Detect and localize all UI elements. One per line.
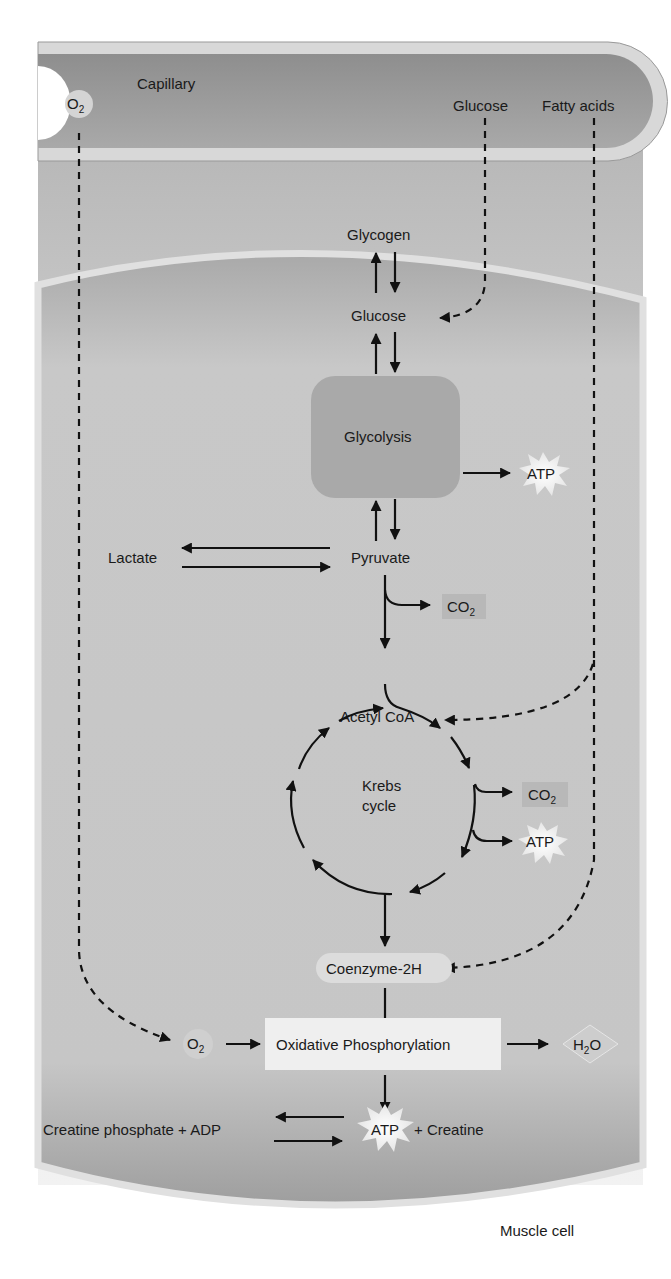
glycolysis-label: Glycolysis xyxy=(344,428,412,445)
krebs-label-line2: cycle xyxy=(362,797,396,814)
fatty-acids-label: Fatty acids xyxy=(542,97,615,114)
acetyl-coa-label: Acetyl CoA xyxy=(340,708,414,725)
atp-glycolysis-label: ATP xyxy=(527,465,555,482)
creatine-phosphate-label: Creatine phosphate + ADP xyxy=(43,1121,221,1138)
atp-final-label: ATP xyxy=(371,1121,399,1138)
krebs-label-line1: Krebs xyxy=(362,777,401,794)
glycogen-label: Glycogen xyxy=(347,226,410,243)
pyruvate-label: Pyruvate xyxy=(351,549,410,566)
glucose-label: Glucose xyxy=(351,307,406,324)
oxphos-label: Oxidative Phosphorylation xyxy=(276,1036,450,1053)
lactate-label: Lactate xyxy=(108,549,157,566)
energy-metabolism-diagram: O2 Capillary Glucose Fatty acids Glycoge… xyxy=(0,0,671,1279)
muscle-cell-label: Muscle cell xyxy=(500,1222,574,1239)
coenzyme-label: Coenzyme-2H xyxy=(326,960,422,977)
capillary-label: Capillary xyxy=(137,75,196,92)
glucose-capillary-label: Glucose xyxy=(453,97,508,114)
creatine-label: + Creatine xyxy=(414,1121,484,1138)
atp-krebs-label: ATP xyxy=(526,833,554,850)
